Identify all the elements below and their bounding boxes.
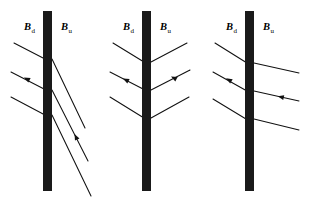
upstream-field-line-1: [254, 63, 299, 73]
physics-figure-container: BdBuBdBuBdBu: [0, 0, 311, 201]
downstream-field-line-1: [113, 43, 144, 62]
label-b-upstream: Bu: [159, 21, 172, 35]
panel-group-2: BdBu: [110, 11, 190, 191]
label-b-downstream: Bd: [225, 21, 238, 35]
label-b-downstream-subscript: d: [131, 27, 135, 35]
upstream-field-line-2: [254, 91, 299, 101]
field-direction-arrow-1: [123, 78, 130, 83]
label-b-downstream-subscript: d: [32, 27, 36, 35]
field-direction-arrow-2: [278, 95, 285, 100]
downstream-field-line-3: [110, 97, 144, 118]
label-b-downstream-subscript: d: [234, 27, 238, 35]
shock-refraction-diagram: BdBuBdBuBdBu: [0, 0, 311, 201]
shock-front-slab: [245, 11, 254, 191]
label-b-downstream: Bd: [23, 21, 36, 35]
downstream-field-line-1: [215, 43, 247, 63]
downstream-field-line-3: [213, 99, 246, 119]
panel-group-1: BdBu: [11, 11, 91, 196]
downstream-field-line-1: [14, 43, 45, 59]
field-direction-arrow-2: [75, 134, 80, 141]
upstream-field-line-1: [151, 43, 187, 62]
shock-front-slab: [43, 11, 52, 191]
upstream-field-line-3: [254, 119, 299, 130]
shock-front-slab: [142, 11, 151, 191]
panel-group-3: BdBu: [213, 11, 299, 191]
label-b-downstream: Bd: [122, 21, 135, 35]
downstream-field-line-3: [11, 97, 45, 115]
upstream-field-line-2: [151, 70, 190, 90]
upstream-field-line-1: [52, 59, 85, 128]
label-b-upstream-subscript: u: [69, 27, 73, 35]
label-b-upstream-subscript: u: [168, 27, 172, 35]
label-b-upstream: Bu: [262, 21, 275, 35]
upstream-field-line-3: [151, 97, 189, 118]
label-b-upstream: Bu: [60, 21, 73, 35]
label-b-upstream-subscript: u: [271, 27, 275, 35]
